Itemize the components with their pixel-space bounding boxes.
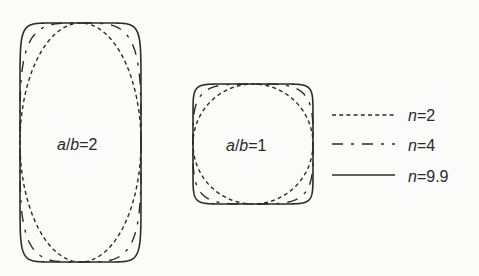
- shape-tall: a/b=2: [20, 23, 141, 262]
- ratio-label-square: a/b=1: [226, 137, 267, 154]
- legend-label-n2: n=2: [408, 107, 435, 124]
- legend-item-n4: n=4: [332, 137, 435, 154]
- legend-label-n9.9: n=9.9: [408, 168, 449, 185]
- legend-item-n9.9: n=9.9: [332, 168, 449, 185]
- ratio-label-tall: a/b=2: [57, 136, 98, 153]
- legend-label-n4: n=4: [408, 137, 435, 154]
- legend: n=2 n=4 n=9.9: [332, 107, 449, 185]
- shape-square: a/b=1: [193, 84, 313, 204]
- superellipse-figure: a/b=2 a/b=1 n=2 n=4 n=9.9: [0, 0, 479, 276]
- legend-item-n2: n=2: [332, 107, 435, 124]
